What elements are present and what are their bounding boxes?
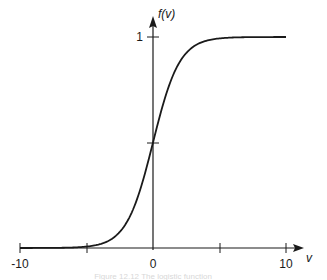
- x-tick-label-10: 10: [279, 257, 293, 271]
- figure-caption: Figure 12.12 The logistic function: [94, 272, 212, 280]
- x-tick-label-0: 0: [150, 257, 157, 271]
- x-axis-label: v: [306, 251, 313, 265]
- logistic-chart: -10 0 10 v 1 f(v) Figure 12.12 The logis…: [0, 0, 327, 280]
- y-axis-label: f(v): [158, 7, 175, 21]
- x-tick-label-neg10: -10: [11, 257, 29, 271]
- y-tick-label-1: 1: [136, 30, 143, 44]
